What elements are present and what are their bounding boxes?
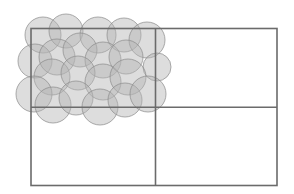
circle-cluster <box>16 14 171 125</box>
diagram-canvas <box>0 0 294 194</box>
